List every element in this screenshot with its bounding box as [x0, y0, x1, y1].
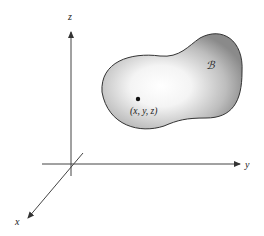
point-marker: [136, 97, 140, 101]
diagram-canvas: z y x ℬ (x, y, z): [0, 0, 264, 236]
x-axis-label: x: [14, 216, 20, 227]
point-label: (x, y, z): [130, 106, 157, 117]
region-b: [102, 34, 242, 129]
x-axis: [28, 153, 83, 218]
z-axis-label: z: [67, 11, 72, 22]
y-axis-label: y: [244, 159, 250, 170]
region-label: ℬ: [206, 59, 216, 71]
